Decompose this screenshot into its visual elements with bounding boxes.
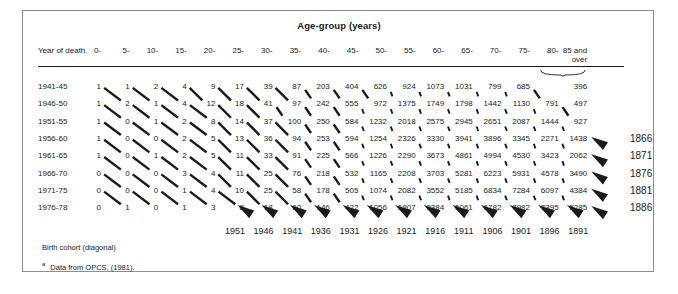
footnote-source-text: Data from OPCS, (1981). — [50, 263, 134, 272]
table-cell: 396 — [527, 82, 587, 91]
footnote-marker: a — [42, 261, 45, 267]
table-cell: 685 — [470, 82, 530, 91]
table-cell: 927 — [527, 117, 587, 126]
table-cell: 497 — [527, 99, 587, 108]
table-cell: 1438 — [527, 134, 587, 143]
figure-canvas: Age-group (years) Year of death 0-5-10-1… — [0, 0, 678, 294]
legend-birth-cohort: Birth cohort (diagonal) — [42, 243, 116, 252]
table-cell: 3490 — [527, 169, 587, 178]
cohort-year-right: 1876 — [630, 168, 652, 179]
table-cell: 4384 — [527, 186, 587, 195]
footnote-source: aData from OPCS, (1981). — [42, 261, 135, 272]
cohort-year-right: 1871 — [630, 150, 652, 161]
figure-title: Age-group (years) — [0, 20, 678, 31]
table-cell: 2062 — [527, 151, 587, 160]
cohort-year-bottom: 1891 — [553, 226, 603, 236]
column-header-17: 85 and — [527, 46, 587, 55]
header-rule — [38, 66, 624, 67]
cohort-year-right: 1866 — [630, 133, 652, 144]
cohort-year-right: 1886 — [630, 202, 652, 213]
cohort-year-right: 1881 — [630, 185, 652, 196]
table-cell: 5285 — [527, 203, 587, 212]
over-label: over — [527, 55, 587, 64]
